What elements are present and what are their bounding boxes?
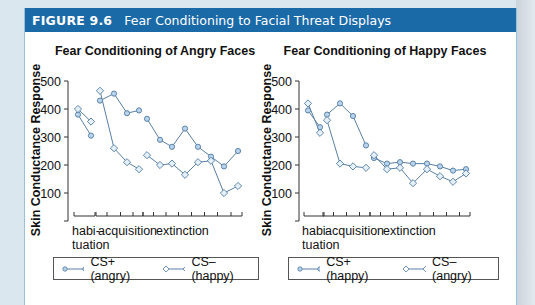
circle-marker — [169, 144, 174, 149]
diamond-marker — [323, 117, 330, 124]
phase-label-acquisition: acquisition — [325, 224, 384, 238]
diamond-marker — [436, 173, 443, 180]
circle-marker — [136, 108, 141, 113]
y-tick-label: 200 — [40, 159, 61, 173]
legend-label: CS+ (happy) — [326, 255, 389, 283]
y-axis-label: Skin Conductance Response — [29, 64, 43, 236]
circle-marker — [450, 168, 455, 173]
legend-entry-cs-plus: CS+ (happy) — [297, 255, 389, 283]
phase-label-extinction: extinction — [156, 224, 209, 238]
legend-label: CS– (happy) — [191, 255, 252, 283]
circle-marker — [144, 116, 149, 121]
y-axis-label: Skin Conductance Response — [260, 64, 274, 236]
circle-marker — [182, 126, 187, 131]
diamond-marker — [336, 160, 343, 167]
phase-label-habituation-cont: tuation — [302, 238, 340, 252]
diamond-marker — [349, 163, 356, 170]
diamond-marker-icon — [403, 264, 426, 274]
phase-label-habituation-cont: tuation — [72, 238, 110, 252]
y-tick-label: 400 — [40, 103, 61, 117]
series-line — [78, 115, 91, 136]
y-tick-label: 300 — [271, 131, 292, 145]
circle-marker — [363, 143, 368, 148]
chart-title: Fear Conditioning of Angry Faces — [55, 44, 255, 58]
circle-marker — [350, 113, 355, 118]
diamond-marker — [449, 178, 456, 185]
circle-marker — [305, 108, 310, 113]
legend-entry-cs-minus: CS– (angry) — [403, 255, 492, 283]
circle-marker — [195, 144, 200, 149]
diamond-marker — [96, 87, 103, 94]
series-line — [100, 94, 139, 114]
y-tick-label: 400 — [271, 103, 292, 117]
circle-marker — [437, 164, 442, 169]
circle-marker — [157, 137, 162, 142]
circle-marker-icon — [62, 264, 84, 274]
diamond-marker — [362, 164, 369, 171]
diamond-marker — [304, 100, 311, 107]
circle-marker — [410, 161, 415, 166]
chart-title: Fear Conditioning of Happy Faces — [284, 44, 487, 58]
circle-marker — [337, 101, 342, 106]
diamond-marker — [316, 129, 323, 136]
legend-label: CS– (angry) — [432, 255, 492, 283]
phase-label-habituation: habi- — [72, 224, 100, 238]
legend-happy-chart: CS+ (happy) CS– (angry) — [288, 257, 499, 280]
y-tick-label: 500 — [40, 75, 61, 89]
diamond-marker — [220, 189, 227, 196]
circle-marker — [235, 148, 240, 153]
phase-label-extinction: extinction — [383, 224, 436, 238]
y-tick-label: 100 — [271, 187, 292, 201]
y-tick-label: 500 — [271, 75, 292, 89]
chart-happy-faces: Fear Conditioning of Happy FacesSkin Con… — [260, 44, 486, 252]
legend-entry-cs-plus: CS+ (angry) — [62, 255, 149, 283]
diamond-marker — [135, 166, 142, 173]
y-tick-label: 300 — [40, 131, 61, 145]
circle-marker — [124, 111, 129, 116]
circle-marker — [97, 98, 102, 103]
y-tick-label: 200 — [271, 159, 292, 173]
chart-angry-faces: Fear Conditioning of Angry FacesSkin Con… — [29, 44, 255, 252]
circle-marker — [221, 164, 226, 169]
legend-angry-chart: CS+ (angry) CS– (happy) — [53, 257, 259, 280]
y-tick-label: 100 — [40, 187, 61, 201]
legend-entry-cs-minus: CS– (happy) — [163, 255, 252, 283]
diamond-marker — [234, 182, 241, 189]
circle-marker-icon — [297, 264, 320, 274]
series-line — [327, 120, 366, 168]
phase-label-acquisition: acquisition — [98, 224, 157, 238]
diamond-marker-icon — [163, 264, 185, 274]
circle-marker — [88, 133, 93, 138]
circle-marker — [111, 91, 116, 96]
legend-label: CS+ (angry) — [90, 255, 148, 283]
series-line — [147, 155, 238, 193]
